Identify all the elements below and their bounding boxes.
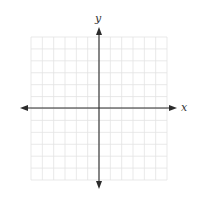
y-axis-down-arrow-icon	[96, 181, 102, 189]
y-axis-up-arrow-icon	[96, 27, 102, 35]
coordinate-plane: x y	[0, 0, 199, 203]
x-axis-right-arrow-icon	[169, 105, 177, 111]
x-axis-label: x	[181, 101, 188, 114]
x-axis-left-arrow-icon	[20, 105, 28, 111]
y-axis-label: y	[94, 12, 102, 25]
